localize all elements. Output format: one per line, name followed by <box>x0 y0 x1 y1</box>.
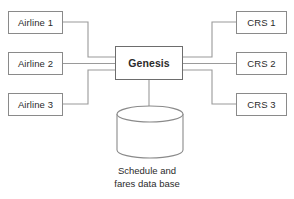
node-airline-2[interactable]: Airline 2 <box>8 52 63 75</box>
node-genesis-hub[interactable]: Genesis <box>115 46 183 80</box>
node-crs-3-label: CRS 3 <box>247 99 275 110</box>
node-airline-3-label: Airline 3 <box>18 99 53 110</box>
database-cylinder-icon <box>117 106 183 158</box>
node-crs-1[interactable]: CRS 1 <box>236 11 287 34</box>
node-airline-2-label: Airline 2 <box>18 58 53 69</box>
diagram-canvas: Airline 1 Airline 2 Airline 3 Genesis CR… <box>0 0 294 199</box>
node-crs-2[interactable]: CRS 2 <box>236 52 287 75</box>
node-airline-1[interactable]: Airline 1 <box>8 11 63 34</box>
node-genesis-label: Genesis <box>128 57 170 69</box>
node-crs-1-label: CRS 1 <box>247 17 275 28</box>
node-crs-3[interactable]: CRS 3 <box>236 93 287 116</box>
connector-genesis-to-crs-3 <box>183 70 236 104</box>
node-crs-2-label: CRS 2 <box>247 58 275 69</box>
database-caption: Schedule and fares data base <box>0 165 294 190</box>
connector-airline-1-to-genesis <box>63 22 115 57</box>
connector-airline-3-to-genesis <box>63 70 115 104</box>
connector-genesis-to-crs-1 <box>183 22 236 57</box>
database-caption-line-1: Schedule and <box>0 165 294 178</box>
database-caption-line-2: fares data base <box>0 178 294 191</box>
node-airline-3[interactable]: Airline 3 <box>8 93 63 116</box>
node-airline-1-label: Airline 1 <box>18 17 53 28</box>
